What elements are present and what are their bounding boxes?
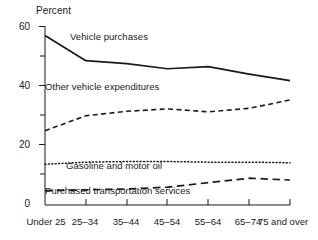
line-gasoline-and-motor-oil <box>45 162 290 165</box>
x-axis <box>45 199 290 205</box>
line-other-vehicle-expenditures <box>45 100 290 131</box>
chart-container: Percent 60 40 20 0 Vehicle purchases Oth… <box>0 0 318 240</box>
series-lines <box>45 35 290 190</box>
line-vehicle-purchases <box>45 35 290 80</box>
chart-plot-area <box>0 0 318 240</box>
line-purchased-transportation-services <box>45 178 290 191</box>
y-axis <box>39 26 45 205</box>
